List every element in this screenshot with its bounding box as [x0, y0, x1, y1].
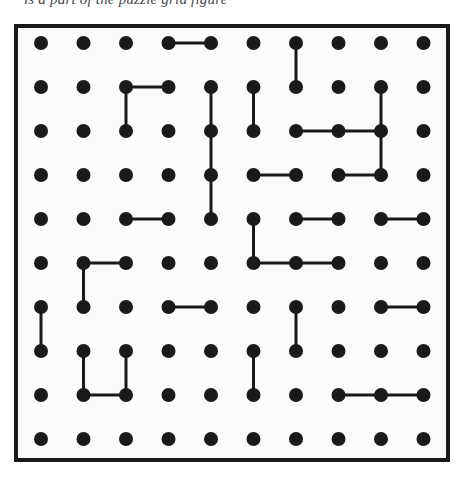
- grid-dot[interactable]: [162, 36, 176, 50]
- grid-dot[interactable]: [332, 80, 346, 94]
- grid-dot[interactable]: [374, 36, 388, 50]
- grid-dot[interactable]: [162, 300, 176, 314]
- grid-dot[interactable]: [332, 124, 346, 138]
- grid-dot[interactable]: [119, 168, 133, 182]
- grid-dot[interactable]: [417, 36, 431, 50]
- grid-dot[interactable]: [247, 300, 261, 314]
- grid-dot[interactable]: [374, 388, 388, 402]
- grid-dot[interactable]: [162, 80, 176, 94]
- grid-dot[interactable]: [119, 432, 133, 446]
- grid-dot[interactable]: [374, 300, 388, 314]
- grid-dot[interactable]: [289, 168, 303, 182]
- grid-dot[interactable]: [417, 256, 431, 270]
- grid-dot[interactable]: [204, 388, 218, 402]
- grid-dot[interactable]: [247, 432, 261, 446]
- grid-dot[interactable]: [332, 300, 346, 314]
- grid-dot[interactable]: [77, 124, 91, 138]
- grid-dot[interactable]: [77, 212, 91, 226]
- grid-dot[interactable]: [417, 80, 431, 94]
- grid-dot[interactable]: [332, 344, 346, 358]
- grid-dot[interactable]: [119, 344, 133, 358]
- grid-dot[interactable]: [417, 168, 431, 182]
- grid-dot[interactable]: [204, 212, 218, 226]
- grid-dot[interactable]: [247, 344, 261, 358]
- grid-dot[interactable]: [332, 432, 346, 446]
- grid-dot[interactable]: [417, 388, 431, 402]
- grid-dot[interactable]: [34, 212, 48, 226]
- grid-dot[interactable]: [204, 124, 218, 138]
- grid-dot[interactable]: [417, 124, 431, 138]
- grid-dot[interactable]: [374, 344, 388, 358]
- grid-dot[interactable]: [204, 432, 218, 446]
- grid-dot[interactable]: [77, 344, 91, 358]
- grid-dot[interactable]: [119, 212, 133, 226]
- grid-dot[interactable]: [119, 124, 133, 138]
- grid-dot[interactable]: [34, 344, 48, 358]
- grid-dot[interactable]: [374, 80, 388, 94]
- grid-dot[interactable]: [374, 432, 388, 446]
- grid-dot[interactable]: [289, 80, 303, 94]
- grid-dot[interactable]: [374, 168, 388, 182]
- grid-dot[interactable]: [289, 432, 303, 446]
- grid-dot[interactable]: [332, 168, 346, 182]
- grid-dot[interactable]: [204, 36, 218, 50]
- grid-dot[interactable]: [289, 344, 303, 358]
- grid-dot[interactable]: [289, 212, 303, 226]
- grid-dot[interactable]: [204, 344, 218, 358]
- grid-dot[interactable]: [77, 80, 91, 94]
- grid-dot[interactable]: [119, 388, 133, 402]
- grid-dot[interactable]: [162, 432, 176, 446]
- grid-dot[interactable]: [374, 212, 388, 226]
- grid-dot[interactable]: [204, 300, 218, 314]
- grid-dot[interactable]: [332, 388, 346, 402]
- grid-dot[interactable]: [162, 212, 176, 226]
- grid-dot[interactable]: [289, 36, 303, 50]
- grid-dot[interactable]: [34, 168, 48, 182]
- grid-dot[interactable]: [247, 256, 261, 270]
- grid-dot[interactable]: [119, 256, 133, 270]
- grid-dot[interactable]: [162, 124, 176, 138]
- grid-dot[interactable]: [417, 344, 431, 358]
- grid-dot[interactable]: [77, 36, 91, 50]
- grid-dot[interactable]: [289, 256, 303, 270]
- grid-dot[interactable]: [162, 344, 176, 358]
- grid-dot[interactable]: [332, 212, 346, 226]
- grid-dot[interactable]: [247, 388, 261, 402]
- grid-dot[interactable]: [204, 80, 218, 94]
- grid-dot[interactable]: [77, 168, 91, 182]
- grid-dot[interactable]: [162, 168, 176, 182]
- grid-dot[interactable]: [374, 256, 388, 270]
- grid-dot[interactable]: [34, 256, 48, 270]
- grid-dot[interactable]: [247, 212, 261, 226]
- grid-dot[interactable]: [289, 388, 303, 402]
- grid-dot[interactable]: [247, 36, 261, 50]
- grid-dot[interactable]: [417, 432, 431, 446]
- grid-dot[interactable]: [162, 388, 176, 402]
- grid-dot[interactable]: [162, 256, 176, 270]
- grid-dot[interactable]: [332, 256, 346, 270]
- grid-dot[interactable]: [77, 256, 91, 270]
- grid-dot[interactable]: [34, 36, 48, 50]
- grid-dot[interactable]: [77, 388, 91, 402]
- grid-dot[interactable]: [34, 388, 48, 402]
- grid-dot[interactable]: [417, 300, 431, 314]
- dot-grid-board[interactable]: [14, 24, 450, 462]
- grid-dot[interactable]: [204, 168, 218, 182]
- grid-dot[interactable]: [77, 432, 91, 446]
- grid-dot[interactable]: [34, 124, 48, 138]
- grid-dot[interactable]: [204, 256, 218, 270]
- grid-dot[interactable]: [119, 36, 133, 50]
- grid-dot[interactable]: [247, 124, 261, 138]
- grid-dot[interactable]: [247, 80, 261, 94]
- grid-dot[interactable]: [247, 168, 261, 182]
- grid-dot[interactable]: [417, 212, 431, 226]
- grid-dot[interactable]: [332, 36, 346, 50]
- grid-dot[interactable]: [34, 432, 48, 446]
- grid-dot[interactable]: [119, 300, 133, 314]
- grid-dot[interactable]: [289, 124, 303, 138]
- grid-dot[interactable]: [289, 300, 303, 314]
- grid-dot[interactable]: [34, 80, 48, 94]
- grid-dot[interactable]: [34, 300, 48, 314]
- grid-dot[interactable]: [77, 300, 91, 314]
- grid-dot[interactable]: [374, 124, 388, 138]
